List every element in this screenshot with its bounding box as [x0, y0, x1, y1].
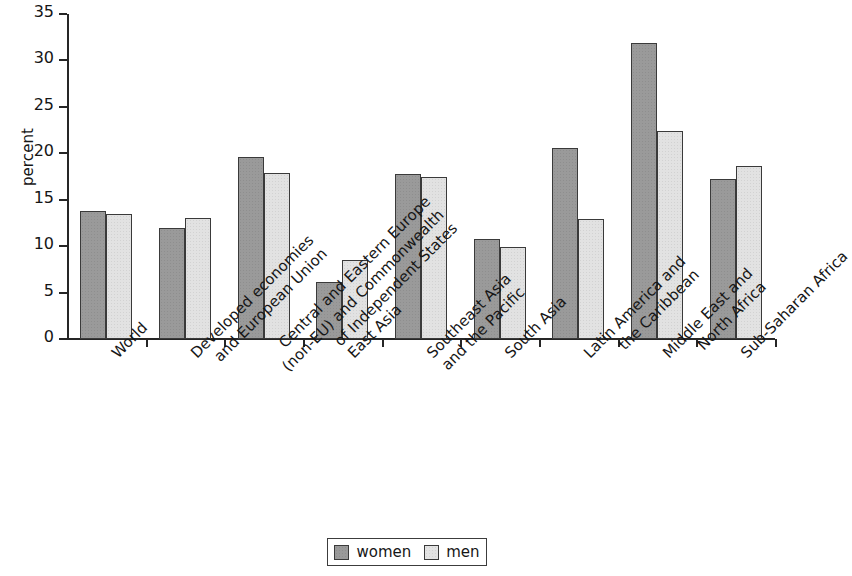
y-tick-label-25: 25: [34, 95, 54, 114]
y-tick-label-15: 15: [34, 188, 54, 207]
legend-swatch-women-icon: [334, 545, 349, 560]
legend-swatch-men-icon: [424, 545, 439, 560]
legend-item-women: women: [334, 543, 411, 561]
y-tick-5: 5: [59, 292, 67, 294]
y-tick-label-35: 35: [34, 2, 54, 21]
y-tick-label-5: 5: [44, 281, 54, 300]
x-tick: [146, 339, 148, 347]
bar-men: [106, 214, 132, 339]
legend-label-men: men: [446, 543, 479, 561]
bar-group: [552, 14, 604, 339]
y-tick-25: 25: [59, 106, 67, 108]
y-tick-0: 0: [59, 338, 67, 340]
y-tick-label-0: 0: [44, 327, 54, 346]
y-tick-15: 15: [59, 199, 67, 201]
legend-label-women: women: [356, 543, 411, 561]
bar-women: [159, 228, 185, 339]
bar-men: [578, 219, 604, 339]
y-tick-30: 30: [59, 59, 67, 61]
bar-women: [80, 211, 106, 339]
x-tick: [539, 339, 541, 347]
bar-group: [80, 14, 132, 339]
y-tick-20: 20: [59, 152, 67, 154]
legend: women men: [327, 538, 487, 566]
bar-men: [185, 218, 211, 339]
y-tick-label-30: 30: [34, 48, 54, 67]
x-tick: [775, 339, 777, 347]
y-tick-35: 35: [59, 13, 67, 15]
y-tick-10: 10: [59, 245, 67, 247]
bar-group: [159, 14, 211, 339]
y-tick-label-20: 20: [34, 141, 54, 160]
x-tick: [382, 339, 384, 347]
legend-item-men: men: [424, 543, 479, 561]
y-tick-label-10: 10: [34, 234, 54, 253]
